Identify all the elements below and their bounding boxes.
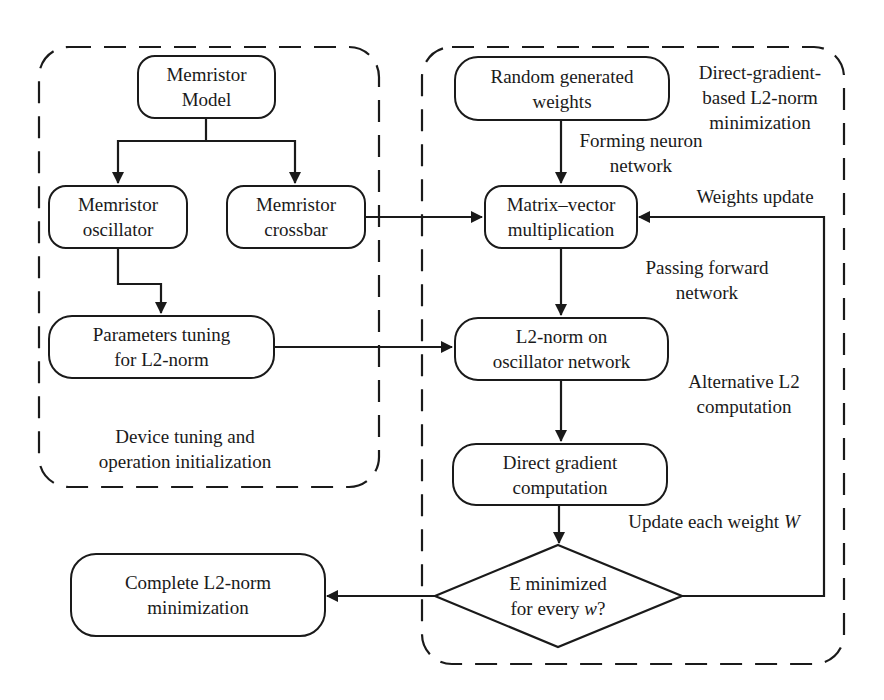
node-label-variable: w	[584, 598, 597, 619]
group-label: based L2-norm	[680, 85, 840, 110]
edge-label: network	[627, 280, 787, 305]
edge-model-to-crossbar	[206, 141, 295, 183]
node-label: oscillator	[83, 217, 154, 242]
node-label: crossbar	[264, 217, 327, 242]
node-decision: E minimized for every w?	[478, 571, 638, 621]
node-label: minimization	[147, 595, 248, 620]
node-label: Random generated	[491, 64, 634, 89]
node-label: oscillator network	[493, 349, 631, 374]
edge-label-variable: W	[784, 511, 800, 532]
node-l2-norm: L2-norm on oscillator network	[454, 317, 669, 381]
node-label-line2: for every w?	[478, 596, 638, 621]
edge-label: Forming neuron	[566, 128, 716, 153]
node-memristor-crossbar: Memristor crossbar	[226, 185, 366, 249]
node-label: ?	[597, 598, 605, 619]
flowchart-canvas: Memristor Model Memristor oscillator Mem…	[0, 0, 884, 700]
edge-label-passing: Passing forward network	[627, 255, 787, 305]
node-label: multiplication	[508, 217, 615, 242]
group-device-tuning-label: Device tuning and operation initializati…	[70, 424, 300, 474]
edge-model-split	[118, 118, 206, 183]
group-label: Device tuning and	[70, 424, 300, 449]
node-label: Parameters tuning	[93, 322, 231, 347]
node-label: computation	[513, 475, 608, 500]
node-label: L2-norm on	[516, 324, 607, 349]
group-label: Direct-gradient-	[680, 60, 840, 85]
group-direct-gradient-label: Direct-gradient- based L2-norm minimizat…	[680, 60, 840, 135]
edge-label: Weights update	[680, 184, 830, 209]
edge-label: computation	[674, 394, 814, 419]
edge-label: Update each weight	[628, 511, 784, 532]
node-parameters-tuning: Parameters tuning for L2-norm	[48, 315, 275, 379]
node-memristor-oscillator: Memristor oscillator	[48, 185, 188, 249]
edge-label: Passing forward	[627, 255, 787, 280]
node-label: for L2-norm	[114, 347, 208, 372]
node-complete: Complete L2-norm minimization	[70, 553, 326, 637]
edge-label-weights-update: Weights update	[680, 184, 830, 209]
node-matrix-vector: Matrix–vector multiplication	[484, 185, 638, 249]
node-memristor-model: Memristor Model	[137, 55, 276, 119]
edge-label: Alternative L2	[674, 369, 814, 394]
node-label: E minimized	[478, 571, 638, 596]
edge-oscillator-to-params	[118, 248, 161, 313]
node-label: Model	[182, 87, 232, 112]
edge-label: network	[566, 153, 716, 178]
node-label: Memristor	[256, 192, 336, 217]
node-label: Memristor	[78, 192, 158, 217]
node-random-weights: Random generated weights	[454, 56, 670, 121]
edge-label-alternative: Alternative L2 computation	[674, 369, 814, 419]
edge-label-update-each: Update each weight W	[614, 509, 814, 534]
node-label: Complete L2-norm	[125, 570, 271, 595]
edge-label-forming: Forming neuron network	[566, 128, 716, 178]
node-label: weights	[532, 89, 591, 114]
node-label: Memristor	[166, 62, 246, 87]
node-label: for every	[511, 598, 585, 619]
group-label: operation initialization	[70, 449, 300, 474]
node-label: Matrix–vector	[507, 192, 616, 217]
node-label: Direct gradient	[503, 450, 617, 475]
node-direct-gradient: Direct gradient computation	[452, 443, 668, 506]
